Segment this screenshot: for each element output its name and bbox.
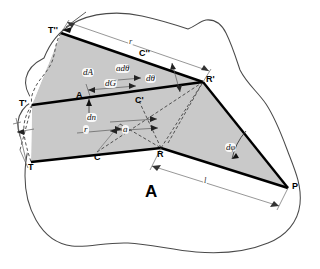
- measure-label-r-upper: r: [128, 37, 133, 46]
- measure-label-a: a: [122, 125, 129, 134]
- point-label-T2: T'': [48, 26, 58, 35]
- point-label-R2: R': [206, 75, 215, 84]
- measure-label-dtheta: dθ: [145, 74, 156, 83]
- technical-diagram-figure: T'' R' T' C'' C' C R T P A dA adθ dG dθ …: [0, 0, 320, 269]
- point-label-C1: C': [135, 96, 144, 105]
- measure-label-l: l: [203, 176, 207, 185]
- measure-label-dG: dG: [104, 79, 117, 88]
- measure-label-dphi: dφ: [225, 143, 236, 152]
- point-label-A-upper: A: [76, 91, 83, 100]
- measure-label-dn: dn: [86, 113, 97, 122]
- point-label-R0: R: [157, 150, 164, 159]
- point-label-T0: T: [28, 163, 34, 172]
- point-label-T1: T': [19, 99, 27, 108]
- measure-label-a-dtheta: adθ: [115, 64, 130, 73]
- measure-label-dA: dA: [82, 68, 94, 77]
- diagram-canvas: [0, 0, 320, 269]
- measure-label-r-lower: r: [83, 125, 89, 134]
- point-label-C2: C'': [139, 49, 150, 58]
- point-label-C0: C: [94, 153, 101, 162]
- point-label-P: P: [292, 182, 298, 191]
- region-caption-A: A: [145, 183, 157, 200]
